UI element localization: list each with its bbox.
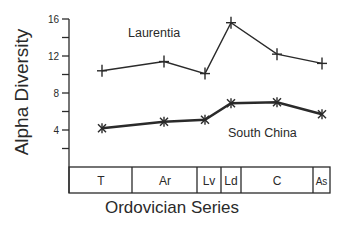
south-china-line [102,102,322,128]
x-axis-label: Ordovician Series [0,198,344,218]
south-china-label: South China [228,126,297,140]
y-axis-label: Alpha Diversity [11,29,33,156]
y-tick-12: 12 [48,51,60,62]
series-box [69,167,330,193]
alpha-diversity-chart: 16 12 8 4 T Ar Lv Ld C As Laurentia Sout… [0,0,344,225]
y-tick-labels: 16 12 8 4 [48,14,60,136]
period-as: As [316,176,328,187]
y-tick-8: 8 [53,88,59,99]
y-axis [62,19,69,193]
period-lv: Lv [203,174,216,188]
period-c: C [273,174,282,188]
period-t: T [97,174,105,188]
period-ld: Ld [224,174,237,188]
y-tick-16: 16 [48,14,60,25]
y-tick-4: 4 [53,125,59,136]
laurentia-label: Laurentia [128,26,180,40]
period-ar: Ar [159,174,171,188]
